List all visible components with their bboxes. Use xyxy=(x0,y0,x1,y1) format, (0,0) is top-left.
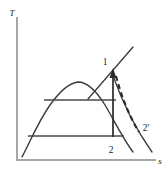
axes-group xyxy=(17,18,155,160)
process-1-2-arrow xyxy=(110,68,117,137)
ts-diagram-figure: T s 1 2 2' xyxy=(0,0,168,173)
ts-diagram-canvas: T s 1 2 2' xyxy=(0,0,168,173)
x-axis-label: s xyxy=(158,156,162,166)
isentropic-diagonal-upper xyxy=(88,47,133,99)
state-label-2-prime: 2' xyxy=(143,123,150,133)
process-1-2prime-dashed xyxy=(116,76,139,132)
state-label-1: 1 xyxy=(103,57,108,67)
saturation-dome-curve xyxy=(22,82,133,157)
y-axis-label: T xyxy=(9,8,15,18)
state-label-2: 2 xyxy=(109,145,114,155)
